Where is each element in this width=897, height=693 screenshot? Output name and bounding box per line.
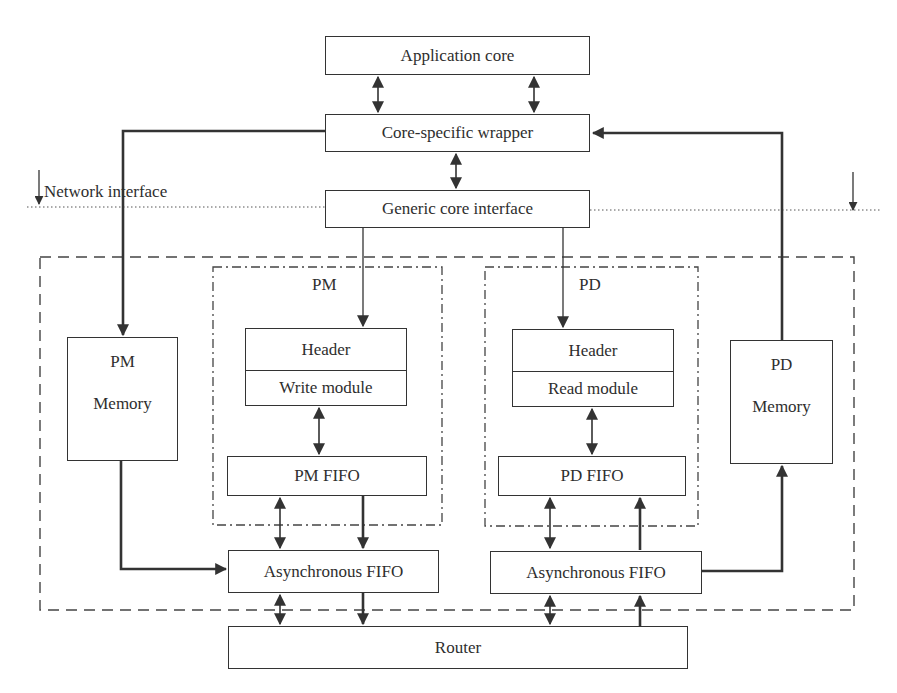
async-fifo-right-block: Asynchronous FIFO [490,551,702,594]
pd-header-cell: Header [513,330,673,371]
read-module-cell: Read module [513,371,673,406]
pd-memory-block: PD Memory [730,340,833,464]
pd-group-label: PD [579,275,601,295]
pd-memory-subtitle: Memory [752,397,811,417]
pm-memory-subtitle: Memory [93,394,152,414]
application-core-block: Application core [325,36,590,75]
read-module-block: Header Read module [512,329,674,407]
async-fifo-left-block: Asynchronous FIFO [228,550,439,593]
generic-core-interface-block: Generic core interface [325,190,590,228]
network-interface-label: Network interface [44,182,167,202]
router-block: Router [228,626,688,669]
core-specific-wrapper-block: Core-specific wrapper [325,114,590,152]
pm-header-cell: Header [246,329,406,370]
pd-fifo-block: PD FIFO [498,456,686,496]
write-module-cell: Write module [246,370,406,405]
pm-fifo-block: PM FIFO [227,456,427,496]
pd-memory-title: PD [771,355,793,375]
pm-group-label: PM [312,275,337,295]
write-module-block: Header Write module [245,328,407,406]
pm-memory-block: PM Memory [67,337,178,461]
pm-memory-title: PM [110,352,135,372]
